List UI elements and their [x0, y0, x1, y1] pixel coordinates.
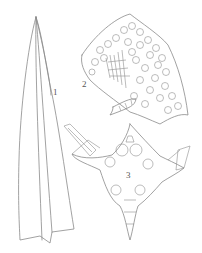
label-1: 1	[53, 88, 58, 97]
label-2: 2	[82, 80, 87, 89]
figure-drawing	[0, 0, 202, 253]
stellate-cell-cluster	[64, 124, 190, 240]
cell-areolation-patch	[81, 14, 188, 124]
label-3: 3	[126, 171, 131, 180]
leaf-outline	[19, 17, 74, 243]
